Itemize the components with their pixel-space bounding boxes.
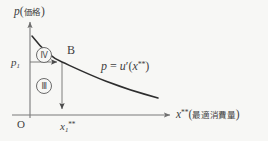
y-tick-subscript: 1 bbox=[17, 62, 20, 69]
equation-paren-close: ) bbox=[145, 59, 149, 73]
curve-equation-label: p = u′(x**) bbox=[101, 60, 149, 72]
economics-diagram: p(価格) x**(最適消費量) p1 O B x1** p = u′(x**)… bbox=[0, 0, 268, 141]
y-axis-label-japanese: 価格 bbox=[24, 7, 41, 17]
region-three-text: Ⅲ bbox=[41, 82, 46, 91]
point-b-label: B bbox=[67, 44, 75, 56]
region-label-four: Ⅳ bbox=[36, 47, 52, 63]
x-axis-label-japanese: 最適消費量 bbox=[192, 110, 236, 120]
origin-label: O bbox=[17, 119, 25, 130]
equation-equals: = bbox=[110, 59, 117, 73]
x-tick-superscript: ** bbox=[68, 121, 75, 129]
y-axis-label-paren-close: ) bbox=[41, 5, 45, 17]
y-axis-label: p(価格) bbox=[14, 6, 45, 18]
x-tick-label-x1: x1** bbox=[60, 121, 75, 134]
region-four-text: Ⅳ bbox=[41, 51, 48, 60]
y-tick-label-p1: p1 bbox=[11, 57, 20, 70]
x-axis-label: x**(最適消費量) bbox=[176, 109, 240, 121]
region-label-three: Ⅲ bbox=[36, 78, 52, 94]
x-axis-label-paren-close: ) bbox=[236, 108, 240, 120]
